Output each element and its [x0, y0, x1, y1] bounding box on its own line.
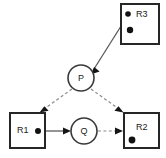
place-r2[interactable]: R2	[124, 113, 159, 148]
arc-p-to-r2-line	[91, 89, 119, 109]
place-r1-token-1	[35, 128, 41, 134]
diagram-canvas: R3 R1 R2 P	[0, 0, 166, 158]
transition-q-label: Q	[80, 126, 87, 136]
arc-q-to-r2-arrowhead	[115, 128, 123, 135]
place-r3[interactable]: R3	[121, 4, 159, 44]
arc-p-to-r2	[91, 89, 124, 113]
transition-p[interactable]: P	[68, 65, 94, 91]
place-r3-token-2	[127, 27, 133, 33]
arc-p-to-r1	[40, 89, 73, 113]
petri-net-diagram: R3 R1 R2 P	[0, 0, 166, 158]
place-r1-label: R1	[17, 125, 29, 135]
arc-q-to-r2	[98, 128, 123, 135]
arc-r1-to-q-arrowhead	[63, 128, 71, 135]
place-r2-token-1	[129, 137, 136, 144]
transition-q[interactable]: Q	[71, 118, 97, 144]
transition-layer: P Q	[68, 65, 97, 144]
arc-p-to-r1-line	[44, 89, 72, 109]
arc-p-to-r2-arrowhead	[114, 106, 123, 112]
arc-p-to-r1-arrowhead	[40, 106, 49, 112]
transition-p-label: P	[78, 73, 84, 83]
place-r2-label: R2	[136, 122, 148, 132]
place-r3-token-1	[125, 11, 131, 17]
place-r3-label: R3	[136, 9, 148, 19]
place-r1[interactable]: R1	[10, 113, 45, 148]
